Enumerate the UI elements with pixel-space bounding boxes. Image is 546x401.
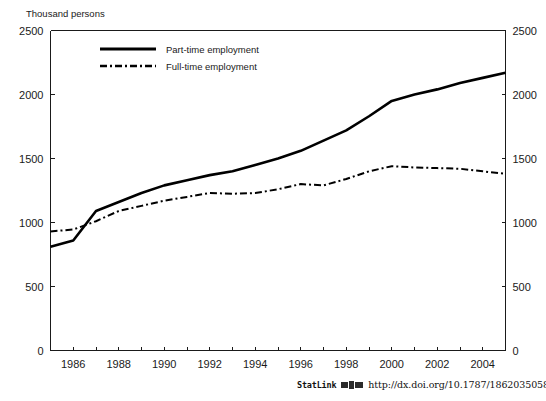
- x-tick-label-1990: 1990: [152, 358, 176, 370]
- y-tick-label-left-0: 0: [37, 345, 43, 357]
- series-line-full-time: [51, 166, 506, 231]
- statlink-url[interactable]: http://dx.doi.org/10.1787/186203505807: [368, 379, 546, 390]
- employment-line-chart: Thousand persons 00500500100010001500150…: [0, 0, 546, 401]
- chart-legend: Part-time employmentFull-time employment: [100, 44, 259, 72]
- legend-label-part-time: Part-time employment: [166, 44, 259, 55]
- legend-label-full-time: Full-time employment: [166, 61, 257, 72]
- statlink-footer: StatLink http://dx.doi.org/10.1787/18620…: [297, 379, 546, 390]
- x-tick-label-1986: 1986: [61, 358, 85, 370]
- statlink-barcode-icon: [341, 381, 363, 389]
- y-tick-label-right-1000: 1000: [513, 217, 537, 229]
- y-tick-label-right-2500: 2500: [513, 25, 537, 37]
- x-tick-label-2004: 2004: [471, 358, 495, 370]
- x-tick-label-1996: 1996: [289, 358, 313, 370]
- y-tick-label-left-2000: 2000: [19, 89, 43, 101]
- y-tick-label-left-2500: 2500: [19, 25, 43, 37]
- x-tick-label-1998: 1998: [334, 358, 358, 370]
- y-axis-tick-labels: 0050050010001000150015002000200025002500: [19, 25, 537, 357]
- x-tick-label-2002: 2002: [425, 358, 449, 370]
- y-tick-label-right-2000: 2000: [513, 89, 537, 101]
- y-tick-label-right-1500: 1500: [513, 153, 537, 165]
- y-tick-label-right-500: 500: [513, 281, 531, 293]
- y-tick-label-left-1000: 1000: [19, 217, 43, 229]
- series-line-part-time: [51, 73, 506, 247]
- x-tick-label-1994: 1994: [243, 358, 267, 370]
- y-tick-label-left-1500: 1500: [19, 153, 43, 165]
- x-tick-label-1992: 1992: [198, 358, 222, 370]
- x-tick-label-2000: 2000: [380, 358, 404, 370]
- x-tick-label-1988: 1988: [107, 358, 131, 370]
- chart-tick-marks: [51, 31, 506, 351]
- x-axis-tick-labels: 1986198819901992199419961998200020022004: [61, 358, 495, 370]
- chart-series-lines: [51, 73, 506, 247]
- statlink-label: StatLink: [297, 380, 336, 390]
- y-axis-unit-label: Thousand persons: [26, 8, 105, 19]
- chart-axes: [51, 31, 506, 351]
- y-tick-label-right-0: 0: [513, 345, 519, 357]
- y-tick-label-left-500: 500: [25, 281, 43, 293]
